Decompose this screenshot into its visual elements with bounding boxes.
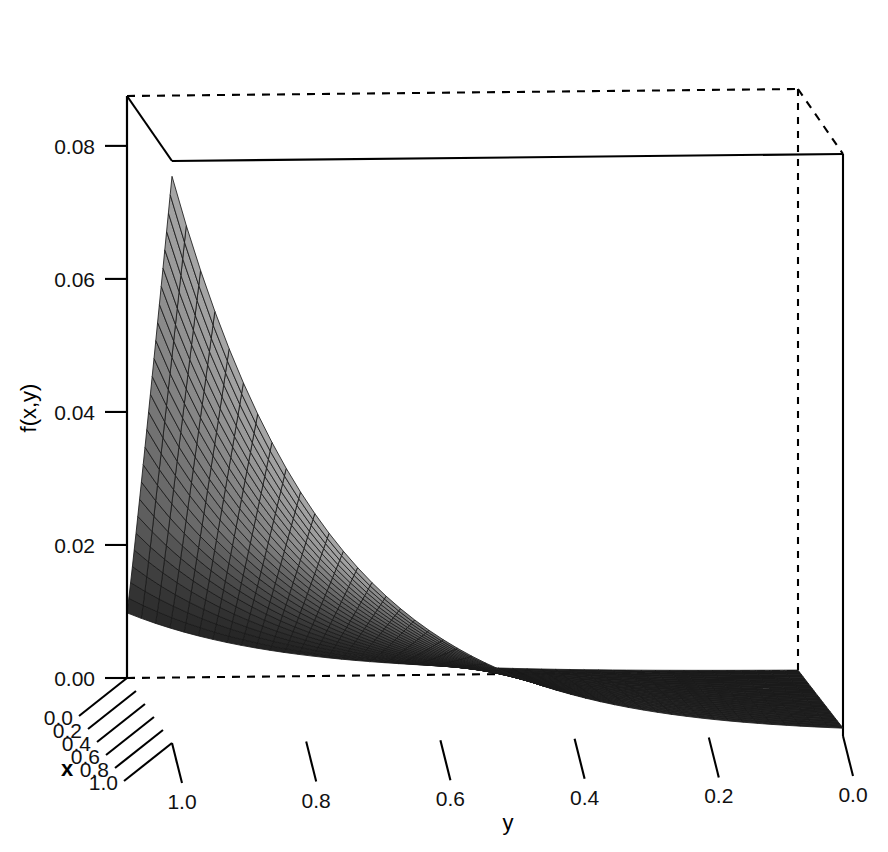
y-axis-tick-label: 0.2 <box>704 784 733 807</box>
z-axis-tick-label: 0.08 <box>54 135 95 158</box>
y-axis: 1.00.80.60.40.20.0 <box>167 736 867 813</box>
surface-facet <box>813 725 829 728</box>
x-axis-tick <box>115 730 163 768</box>
surface-facet <box>784 723 800 726</box>
surface-facet <box>770 722 786 725</box>
surface-facet <box>798 724 814 727</box>
y-axis-tick <box>843 736 853 776</box>
y-axis-tick-label: 0.4 <box>570 786 600 809</box>
z-axis-tick-label: 0.04 <box>54 401 95 424</box>
y-axis-title: y <box>503 810 514 835</box>
y-axis-tick <box>306 742 316 782</box>
z-axis-tick-label: 0.02 <box>54 534 95 557</box>
x-axis-tick <box>97 704 145 742</box>
surface-plot-svg: 0.000.020.040.060.08f(x,y)1.00.80.60.40.… <box>0 0 888 852</box>
y-axis-tick <box>440 740 450 780</box>
y-axis-tick-label: 0.6 <box>436 787 465 810</box>
x-axis-tick-label: 0.0 <box>44 706 73 729</box>
y-axis-tick-label: 0.8 <box>302 789 331 812</box>
box-edge-top-left <box>127 96 172 161</box>
x-axis-tick <box>88 691 136 729</box>
box-edge-top-right-back <box>798 89 843 154</box>
z-axis-tick-label: 0.06 <box>54 268 95 291</box>
surface-facet <box>827 725 843 728</box>
z-axis-tick-label: 0.00 <box>54 667 95 690</box>
box-edge-top-back <box>127 89 798 96</box>
x-axis-tick <box>106 717 154 755</box>
box-edge-top-far <box>172 154 843 161</box>
y-axis-tick <box>575 739 585 779</box>
z-axis-title: f(x,y) <box>16 384 41 433</box>
surface-plot-canvas: 0.000.020.040.060.08f(x,y)1.00.80.60.40.… <box>0 0 888 852</box>
x-axis-title: x <box>61 756 74 781</box>
y-axis-tick-label: 1.0 <box>167 790 196 813</box>
surface-mesh <box>127 176 843 728</box>
x-axis-tick <box>124 743 172 781</box>
z-axis: 0.000.020.040.060.08 <box>54 96 127 690</box>
y-axis-tick <box>709 737 719 777</box>
y-axis-tick-label: 0.0 <box>838 783 867 806</box>
y-axis-tick <box>172 743 182 783</box>
